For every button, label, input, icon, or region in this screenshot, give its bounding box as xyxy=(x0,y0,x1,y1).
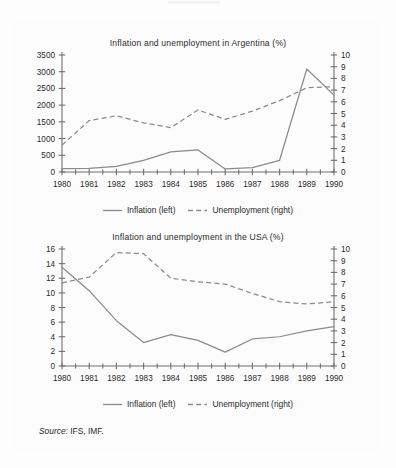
chart-argentina-plot: 0500100015002000250030003500012345678910… xyxy=(14,50,382,195)
svg-text:4: 4 xyxy=(50,333,55,342)
solid-line-icon xyxy=(103,207,122,214)
svg-text:8: 8 xyxy=(341,268,346,277)
svg-text:3: 3 xyxy=(341,133,346,142)
svg-text:1986: 1986 xyxy=(216,180,235,189)
svg-text:14: 14 xyxy=(46,260,56,269)
svg-text:1989: 1989 xyxy=(298,374,317,383)
figure-panel: Inflation and unemployment in Argentina … xyxy=(14,18,382,454)
legend-entry-inflation: Inflation (left) xyxy=(103,400,175,408)
svg-text:0: 0 xyxy=(50,362,55,371)
svg-text:0: 0 xyxy=(341,168,346,177)
source-value: IFS, IMF. xyxy=(68,426,104,436)
svg-text:1500: 1500 xyxy=(37,118,56,127)
legend-entry-unemployment: Unemployment (right) xyxy=(188,400,293,408)
svg-text:8: 8 xyxy=(50,304,55,313)
svg-text:1983: 1983 xyxy=(134,374,153,383)
svg-text:1984: 1984 xyxy=(162,374,181,383)
chart-usa-title: Inflation and unemployment in the USA (%… xyxy=(14,232,382,242)
svg-text:0: 0 xyxy=(50,168,55,177)
svg-text:6: 6 xyxy=(341,292,346,301)
legend-label-unemployment: Unemployment (right) xyxy=(212,206,293,214)
svg-text:2: 2 xyxy=(341,145,346,154)
svg-text:2: 2 xyxy=(341,339,346,348)
chart-argentina-title: Inflation and unemployment in Argentina … xyxy=(14,38,382,48)
svg-text:7: 7 xyxy=(341,280,346,289)
svg-text:1988: 1988 xyxy=(270,374,289,383)
svg-text:5: 5 xyxy=(341,304,346,313)
dashed-line-icon xyxy=(188,207,207,214)
svg-text:2000: 2000 xyxy=(37,101,56,110)
svg-text:1980: 1980 xyxy=(53,374,72,383)
svg-text:6: 6 xyxy=(50,318,55,327)
svg-text:1980: 1980 xyxy=(53,180,72,189)
svg-text:2500: 2500 xyxy=(37,84,56,93)
svg-text:1000: 1000 xyxy=(37,135,56,144)
svg-text:3500: 3500 xyxy=(37,51,56,60)
svg-text:1989: 1989 xyxy=(298,180,317,189)
svg-text:2: 2 xyxy=(50,347,55,356)
page-top-artifact xyxy=(168,1,220,4)
legend-entry-unemployment: Unemployment (right) xyxy=(188,206,293,214)
svg-text:10: 10 xyxy=(341,245,351,254)
svg-text:7: 7 xyxy=(341,86,346,95)
source-note: Source: IFS, IMF. xyxy=(39,426,104,436)
svg-text:5: 5 xyxy=(341,110,346,119)
svg-text:3: 3 xyxy=(341,327,346,336)
svg-text:1987: 1987 xyxy=(243,180,262,189)
svg-text:1985: 1985 xyxy=(189,180,208,189)
chart-argentina-legend: Inflation (left) Unemployment (right) xyxy=(14,206,382,214)
chart-usa: Inflation and unemployment in the USA (%… xyxy=(14,232,382,422)
svg-text:1: 1 xyxy=(341,156,346,165)
svg-text:1982: 1982 xyxy=(107,374,126,383)
chart-usa-plot: 0246810121416012345678910198019811982198… xyxy=(14,244,382,389)
svg-text:1985: 1985 xyxy=(189,374,208,383)
source-label: Source: xyxy=(39,426,68,436)
svg-text:1986: 1986 xyxy=(216,374,235,383)
dashed-line-icon xyxy=(188,401,207,408)
svg-text:6: 6 xyxy=(341,98,346,107)
legend-entry-inflation: Inflation (left) xyxy=(103,206,175,214)
svg-text:1982: 1982 xyxy=(107,180,126,189)
svg-text:9: 9 xyxy=(341,63,346,72)
legend-label-inflation: Inflation (left) xyxy=(127,206,175,214)
svg-text:0: 0 xyxy=(341,362,346,371)
svg-text:8: 8 xyxy=(341,74,346,83)
page-root: Inflation and unemployment in Argentina … xyxy=(0,0,396,468)
svg-text:1984: 1984 xyxy=(162,180,181,189)
svg-text:3000: 3000 xyxy=(37,68,56,77)
svg-text:10: 10 xyxy=(46,289,56,298)
svg-text:1: 1 xyxy=(341,350,346,359)
legend-label-inflation: Inflation (left) xyxy=(127,400,175,408)
svg-text:1981: 1981 xyxy=(80,374,99,383)
svg-text:1988: 1988 xyxy=(270,180,289,189)
chart-argentina: Inflation and unemployment in Argentina … xyxy=(14,38,382,228)
chart-usa-legend: Inflation (left) Unemployment (right) xyxy=(14,400,382,408)
svg-text:16: 16 xyxy=(46,245,56,254)
legend-label-unemployment: Unemployment (right) xyxy=(212,400,293,408)
svg-text:1981: 1981 xyxy=(80,180,99,189)
svg-text:4: 4 xyxy=(341,121,346,130)
figure: Inflation and unemployment in Argentina … xyxy=(14,18,382,454)
solid-line-icon xyxy=(103,401,122,408)
svg-text:500: 500 xyxy=(41,151,55,160)
svg-text:1990: 1990 xyxy=(325,180,344,189)
svg-text:10: 10 xyxy=(341,51,351,60)
svg-text:4: 4 xyxy=(341,315,346,324)
svg-text:1987: 1987 xyxy=(243,374,262,383)
svg-text:9: 9 xyxy=(341,257,346,266)
svg-text:1990: 1990 xyxy=(325,374,344,383)
svg-text:1983: 1983 xyxy=(134,180,153,189)
svg-text:12: 12 xyxy=(46,274,56,283)
